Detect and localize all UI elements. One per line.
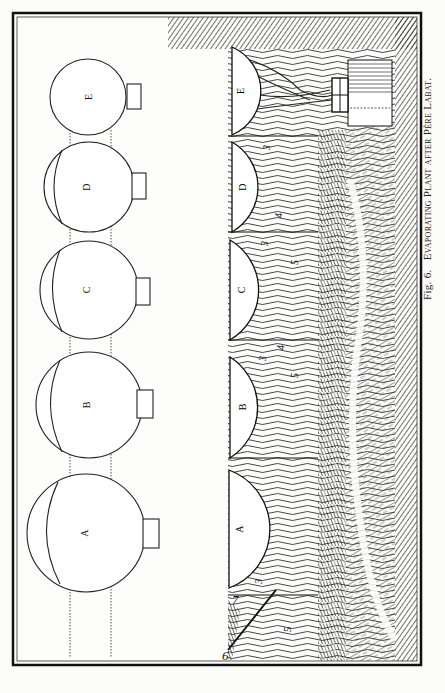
number-label: 3 [257, 356, 268, 362]
svg-text:E: E [235, 88, 246, 94]
brick-wall [318, 130, 346, 661]
engraving-plate: E D C B A 3 3 3 3 4 4 5 5 5 7 6 [0, 0, 445, 693]
right-wall-hatching [395, 17, 417, 661]
number-label: 4 [275, 345, 286, 350]
number-label: 5 [289, 373, 300, 378]
number-label: 3 [259, 241, 270, 247]
number-label: 3 [253, 579, 264, 585]
svg-text:B: B [237, 403, 248, 410]
number-label: 6 [222, 648, 229, 663]
number-label: 5 [282, 627, 293, 632]
svg-text:C: C [236, 286, 247, 293]
svg-text:A: A [79, 529, 90, 537]
number-label: 3 [261, 145, 272, 151]
number-label: 4 [273, 213, 284, 218]
svg-text:A: A [234, 525, 245, 533]
number-label: 5 [289, 260, 300, 265]
top-wall-hatching [168, 17, 417, 49]
svg-text:D: D [81, 183, 92, 190]
svg-text:D: D [237, 183, 248, 190]
figure-title: Evaporating Plant after Père Labat. [421, 78, 433, 261]
number-label: 7 [232, 592, 239, 607]
svg-text:C: C [81, 286, 92, 293]
svg-text:E: E [83, 94, 94, 100]
figure-number: Fig. 6. [421, 269, 433, 300]
svg-text:B: B [81, 401, 92, 408]
